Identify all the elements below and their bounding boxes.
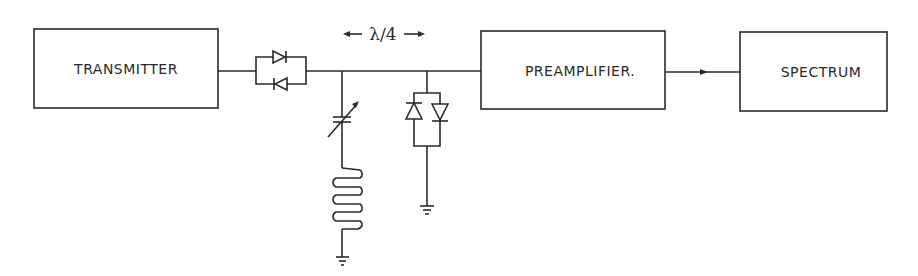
transmitter-block: TRANSMITTER xyxy=(34,29,218,108)
preamplifier-label: PREAMPLIFIER. xyxy=(525,63,635,79)
spectrum-label: SPECTRUM xyxy=(781,64,862,80)
ground-icon xyxy=(420,206,434,214)
shunt-diode-pair xyxy=(406,71,448,206)
circuit-diagram: TRANSMITTER λ/4 xyxy=(0,0,918,276)
quarter-wave-annotation: λ/4 xyxy=(343,24,425,44)
ground-icon xyxy=(336,257,349,265)
spectrum-block: SPECTRUM xyxy=(740,32,887,111)
preamplifier-block: PREAMPLIFIER. xyxy=(481,31,665,109)
transmitter-label: TRANSMITTER xyxy=(73,61,178,77)
lambda-quarter-label: λ/4 xyxy=(369,24,396,44)
signal-arrow xyxy=(665,69,740,75)
inductor xyxy=(333,168,362,257)
variable-capacitor xyxy=(328,71,359,168)
series-diode-pair xyxy=(256,51,306,90)
